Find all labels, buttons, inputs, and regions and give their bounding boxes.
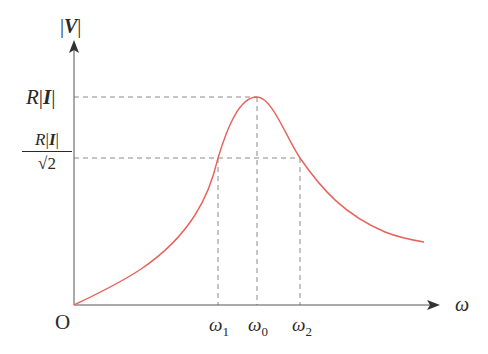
numerator-bar2: | [56, 130, 59, 149]
x-axis-label: ω [455, 294, 469, 314]
y-axis-label-bar-right: | [77, 15, 81, 37]
half-power-denominator: √2 [22, 152, 72, 172]
resonance-diagram [0, 0, 488, 354]
half-power-level-label: R|I| √2 [22, 131, 72, 172]
numerator-I: I [49, 130, 56, 149]
y-axis-label-var: V [64, 15, 77, 37]
tick-omega0-sub: 0 [261, 324, 268, 339]
peak-label-bar2: | [51, 85, 55, 109]
origin-label: O [55, 312, 70, 333]
peak-label-I: I [43, 85, 51, 109]
peak-label-R: R [26, 85, 39, 109]
tick-omega0-base: ω [248, 314, 261, 335]
tick-omega2: ω2 [292, 315, 312, 334]
resonance-curve [74, 97, 424, 305]
tick-omega2-sub: 2 [305, 324, 312, 339]
tick-omega2-base: ω [292, 314, 305, 335]
tick-omega0: ω0 [248, 315, 268, 334]
numerator-R: R [35, 130, 45, 149]
peak-level-label: R|I| [26, 87, 55, 108]
tick-omega1: ω1 [209, 315, 229, 334]
tick-omega1-base: ω [209, 314, 222, 335]
half-power-numerator: R|I| [22, 131, 72, 152]
y-axis-label: |V| [60, 16, 81, 36]
tick-omega1-sub: 1 [222, 324, 229, 339]
